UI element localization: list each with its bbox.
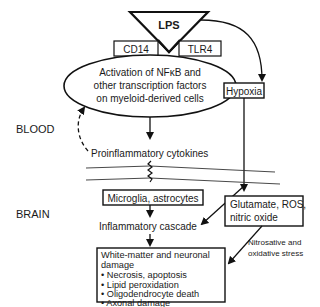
- cascade-label: Inflammatory cascade: [99, 221, 197, 232]
- cd14-label: CD14: [123, 44, 149, 55]
- damage-item: • Necrosis, apoptosis: [101, 270, 187, 280]
- barrier-line-bottom: [86, 178, 280, 184]
- lps-label: LPS: [158, 19, 179, 31]
- activation-line-3: on myeloid-derived cells: [96, 93, 203, 104]
- activation-line-1: Activation of NFκB and: [99, 67, 201, 78]
- receptor-tlr4: TLR4: [179, 41, 221, 56]
- damage-item: • Lipid peroxidation: [101, 280, 179, 290]
- stress-line-1: Nitrosative and: [248, 238, 301, 247]
- barrier-line-top: [86, 166, 275, 172]
- stress-line-2: oxidative stress: [248, 249, 303, 258]
- damage-title-line-2: damage: [101, 260, 134, 270]
- excitotoxin-line-2: nitric oxide: [230, 212, 278, 223]
- tlr4-label: TLR4: [188, 44, 213, 55]
- activation-node: Activation of NFκB and other transcripti…: [64, 55, 236, 117]
- damage-title-line-1: White-matter and neuronal: [101, 250, 210, 260]
- cytokine-feedback-arrow: [78, 108, 88, 151]
- damage-node: White-matter and neuronal damage • Necro…: [97, 248, 225, 302]
- damage-item: • Axonal damage: [101, 298, 170, 307]
- glia-node: Microglia, astrocytes: [103, 190, 203, 205]
- glia-label: Microglia, astrocytes: [107, 193, 198, 204]
- excitotoxin-line-1: Glutamate, ROS,: [230, 199, 306, 210]
- excitotoxin-node: Glutamate, ROS, nitric oxide: [225, 196, 306, 226]
- hypoxia-node: Hypoxia: [224, 83, 264, 98]
- receptor-cd14: CD14: [114, 41, 158, 56]
- cytokines-label: Proinflammatory cytokines: [91, 148, 208, 159]
- activation-line-2: other transcription factors: [94, 80, 207, 91]
- cytokine-crossing-squiggle: [148, 161, 152, 182]
- lps-pathway-diagram: LPS CD14 TLR4 Activation of NFκB and oth…: [0, 0, 320, 307]
- brain-label: BRAIN: [16, 208, 50, 220]
- hypoxia-label: Hypoxia: [226, 86, 263, 97]
- blood-label: BLOOD: [16, 123, 55, 135]
